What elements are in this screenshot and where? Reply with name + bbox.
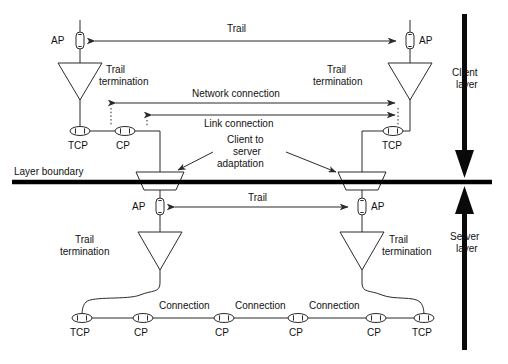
server-ap-left [156,198,164,215]
client-trail-label: Trail [227,23,246,34]
client-tcp-right-label: TCP [382,140,402,151]
client-tt-right [388,63,432,100]
server-tt-right-label-line1: Trail [389,234,408,245]
client-tcp-left-label: TCP [68,140,88,151]
server-tt-right-label-line2: termination [382,246,431,257]
connection-3-label: Connection [309,300,360,311]
server-cp-4 [366,314,386,323]
client-tt-left-label-line1: Trail [106,64,125,75]
server-cp-4-label: CP [367,327,381,338]
connection-2-label: Connection [235,300,286,311]
client-tcp-right [383,127,403,136]
server-tcp-left [72,314,92,323]
client-ap-right-label: AP [419,35,433,46]
client-cp-left-label: CP [116,140,130,151]
client-tt-left [58,63,102,100]
client-cp-left [115,127,135,136]
diagram-canvas: Trail termination AP Trail termination A… [0,0,508,364]
server-tt-left-label-line1: Trail [75,234,94,245]
server-layer-indicator-arrow [455,186,474,350]
server-cp-1 [133,314,153,323]
server-cp-1-label: CP [134,327,148,338]
client-tt-left-label-line2: termination [99,76,148,87]
network-connection-label: Network connection [192,88,280,99]
server-cp-3-label: CP [289,327,303,338]
link-connection-label: Link connection [204,118,274,129]
server-tt-left-label-line2: termination [60,246,109,257]
server-tcp-right [414,314,434,323]
server-cp-3 [288,314,308,323]
adaptation-callout-left-arrow [178,152,213,170]
adaptation-callout-right-arrow [286,152,336,172]
server-left-curve [82,270,160,318]
client-layer-indicator-arrow [455,14,474,178]
server-trail-label: Trail [248,192,267,203]
client-tcp-left [70,127,90,136]
adaptation-label-line3: adaptation [217,158,264,169]
client-tt-right-label-line1: Trail [327,64,346,75]
client-ap-left [76,32,84,49]
server-tcp-right-label: TCP [412,327,432,338]
layer-boundary-label: Layer boundary [14,166,84,177]
adaptation-label-line1: Client to [227,134,264,145]
client-layer-label-line1: Client [452,67,478,78]
server-layer-label-line2: layer [456,243,478,254]
server-ap-right-label: AP [371,201,385,212]
server-cp-2 [214,314,234,323]
client-ap-left-label: AP [51,35,65,46]
adaptation-label-line2: server [233,146,261,157]
server-ap-right [358,198,366,215]
server-tt-right [340,232,384,270]
server-ap-left-label: AP [132,201,146,212]
client-layer-label-line2: layer [456,79,478,90]
server-tcp-left-label: TCP [70,327,90,338]
server-layer-label-line1: Server [450,231,480,242]
server-cp-2-label: CP [215,327,229,338]
connection-1-label: Connection [159,300,210,311]
network-layer-diagram: Trail termination AP Trail termination A… [0,0,508,364]
client-ap-right [406,32,414,49]
server-tt-left [138,232,182,270]
client-tt-right-label-line2: termination [313,76,362,87]
server-right-curve [362,270,424,318]
